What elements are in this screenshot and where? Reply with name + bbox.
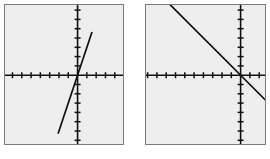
- right-graph-plot-area: [146, 5, 265, 144]
- right-graph-panel[interactable]: [145, 4, 266, 145]
- series-group: [151, 5, 265, 105]
- right-graph-svg: [146, 5, 265, 144]
- axes-group: [5, 5, 123, 144]
- two-graph-figure: [0, 0, 270, 159]
- left-graph-panel[interactable]: [4, 4, 124, 145]
- left-graph-svg: [5, 5, 123, 144]
- left-graph-plot-area: [5, 5, 123, 144]
- series-line: [151, 5, 265, 105]
- axes-group: [146, 5, 265, 144]
